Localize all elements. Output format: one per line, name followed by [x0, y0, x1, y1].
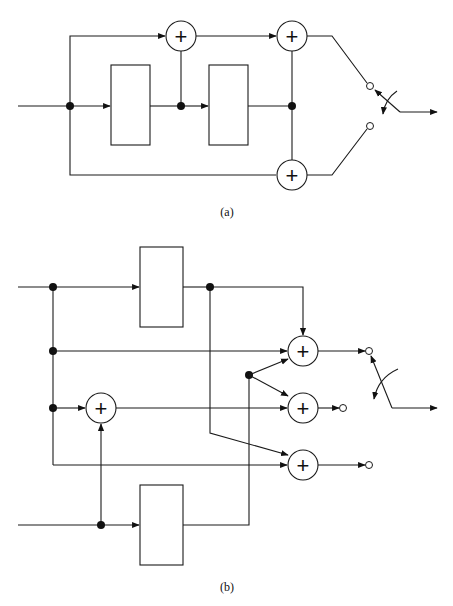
wire-to-adderB1-diag [249, 359, 288, 375]
plus-sign: + [95, 396, 108, 421]
junction-dot [206, 283, 214, 291]
wire-out-bottom-a [307, 129, 367, 175]
wire-out-top-a [307, 36, 367, 83]
adder-b1: + [288, 336, 318, 366]
panel-a: + + + (a) [18, 21, 437, 219]
switch-terminal-2-b [340, 405, 347, 412]
plus-sign: + [286, 163, 299, 188]
junction-dot [97, 521, 105, 529]
junction-dot [49, 283, 57, 291]
block-diagram: + + + (a) [0, 0, 453, 606]
block-1-b [140, 247, 183, 327]
wire-block2-out-b [183, 375, 249, 525]
caption-a: (a) [220, 205, 233, 219]
block-2-b [140, 485, 183, 565]
wire-to-adderB1-top [210, 287, 303, 335]
plus-sign: + [297, 396, 310, 421]
caption-b: (b) [220, 580, 234, 594]
plus-sign: + [286, 24, 299, 49]
adder-1-a: + [166, 21, 196, 51]
switch-terminal-1-b [366, 348, 373, 355]
adder-3-a: + [277, 160, 307, 190]
junction-dot [288, 102, 296, 110]
adder-b2: + [288, 393, 318, 423]
plus-sign: + [175, 24, 188, 49]
block-2-a [209, 65, 248, 145]
panel-b: + + + + [18, 247, 437, 594]
adder-2-a: + [277, 21, 307, 51]
switch-a [375, 90, 437, 114]
plus-sign: + [297, 453, 310, 478]
adder-b3: + [288, 450, 318, 480]
junction-dot [177, 102, 185, 110]
switch-b [371, 356, 437, 408]
switch-terminal-3-b [366, 462, 373, 469]
adder-left-b: + [86, 393, 116, 423]
switch-terminal-1-a [367, 83, 374, 90]
wire-to-adderB2-diag [249, 375, 288, 396]
switch-terminal-2-a [367, 123, 374, 130]
plus-sign: + [297, 339, 310, 364]
junction-dot [66, 102, 74, 110]
block-1-a [111, 65, 150, 145]
